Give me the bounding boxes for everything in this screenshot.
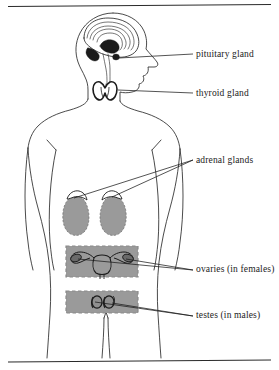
label-pituitary-gland: pituitary gland [196,50,254,60]
testes-panel [66,291,138,313]
leader-adrenal-a [74,160,193,198]
top-rule [8,5,271,7]
leader-adrenal-b [112,160,193,197]
leader-pituitary [119,54,193,58]
kidney-right [100,196,126,235]
label-adrenal-glands: adrenal glands [196,156,253,166]
kidney-left [63,196,89,235]
endocrine-system-figure: pituitary gland thyroid gland adrenal gl… [0,0,279,370]
label-testes: testes (in males) [196,311,260,321]
ovaries-panel [66,246,138,279]
bottom-rule [8,360,271,362]
thyroid-gland [93,82,117,100]
label-thyroid-gland: thyroid gland [196,89,249,99]
label-ovaries: ovaries (in females) [196,265,274,275]
